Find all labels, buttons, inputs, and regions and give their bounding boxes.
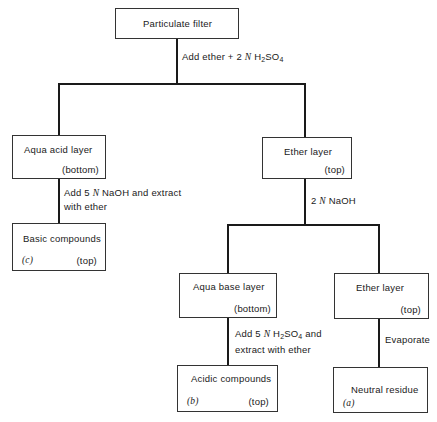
connector-ether-1-down — [304, 178, 306, 225]
node-position: (top) — [248, 396, 269, 407]
node-position: (top) — [400, 304, 421, 315]
connector-filter-down — [176, 38, 178, 85]
node-label: Ether layer — [356, 282, 404, 293]
connector-to-ether-1 — [304, 84, 306, 137]
edge-label-step5: Evaporate — [385, 333, 430, 346]
edge-label-step1: Add ether + 2 N H2SO4 — [182, 50, 284, 66]
node-tag: (c) — [22, 255, 33, 265]
node-aqua-acid-layer: Aqua acid layer (bottom) — [12, 135, 106, 179]
connector-to-ether-2 — [378, 224, 380, 273]
node-aqua-base-layer: Aqua base layer (bottom) — [179, 273, 277, 318]
node-position: (top) — [324, 164, 345, 175]
node-tag: (a) — [343, 398, 355, 408]
connector-to-aqua-acid — [58, 83, 60, 135]
connector-aqua-base-to-acidic — [227, 317, 229, 365]
edge-label-step3: Add 5 N NaOH and extract with ether — [64, 186, 181, 213]
node-ether-layer-2: Ether layer (top) — [334, 273, 429, 319]
connector-ether-2-to-neutral — [378, 318, 380, 367]
node-particulate-filter: Particulate filter — [115, 8, 239, 39]
node-tag: (b) — [187, 396, 199, 406]
node-position: (bottom) — [234, 303, 271, 314]
node-label: Aqua acid layer — [24, 144, 92, 155]
node-acidic-compounds: Acidic compounds (b) (top) — [177, 365, 278, 412]
edge-label-step2: 2 N NaOH — [311, 194, 356, 208]
node-neutral-residue: Neutral residue (a) — [333, 367, 428, 413]
node-label: Acidic compounds — [191, 373, 271, 384]
node-label: Neutral residue — [351, 384, 418, 395]
node-label: Ether layer — [284, 146, 332, 157]
node-label: Particulate filter — [143, 18, 212, 29]
node-label: Aqua base layer — [193, 281, 265, 292]
node-basic-compounds: Basic compounds (c) (top) — [12, 223, 106, 271]
connector-split-1 — [58, 83, 306, 85]
node-label: Basic compounds — [23, 233, 101, 244]
connector-aqua-acid-to-basic — [58, 178, 60, 223]
connector-split-2 — [227, 224, 380, 226]
node-ether-layer-1: Ether layer (top) — [262, 137, 352, 179]
edge-label-step4: Add 5 N H2SO4 and extract with ether — [235, 327, 322, 356]
connector-to-aqua-base — [227, 224, 229, 273]
node-position: (top) — [76, 255, 97, 266]
node-position: (bottom) — [62, 164, 99, 175]
